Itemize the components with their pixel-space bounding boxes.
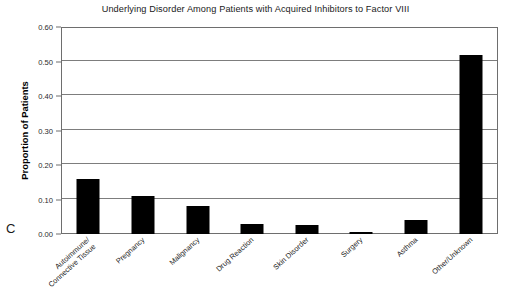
- x-axis-tick-label: Skin Disorder: [272, 236, 311, 272]
- x-axis-tick-label: Surgery: [340, 236, 365, 260]
- x-axis-tick-label: Other/Unknown: [431, 236, 475, 277]
- plot-area: [61, 27, 498, 234]
- y-axis-tick-label: 0.20: [38, 161, 53, 170]
- gridline: [62, 129, 497, 130]
- x-axis-tick-label: Autoimmune/Connective Tissue: [41, 236, 97, 289]
- y-axis-tick-label: 0.10: [38, 195, 53, 204]
- gridline: [62, 163, 497, 164]
- x-axis-tick-label: Asthma: [395, 236, 419, 259]
- gridline: [62, 198, 497, 199]
- y-axis-tick-label: 0.50: [38, 57, 53, 66]
- figure-panel-c: Underlying Disorder Among Patients with …: [0, 0, 511, 307]
- y-axis-tick-label: 0.40: [38, 92, 53, 101]
- y-axis-tick-label: 0.60: [38, 23, 53, 32]
- gridline: [62, 60, 497, 61]
- y-axis-tick-label: 0.00: [38, 230, 53, 239]
- x-axis-tick-labels: Autoimmune/Connective TissuePregnancyMal…: [61, 236, 498, 307]
- x-axis-tick-label: Drug Reaction: [215, 236, 256, 274]
- y-axis-ticks: 0.600.500.400.300.200.100.00: [0, 0, 61, 207]
- x-axis-tick-label: Malignancy: [168, 236, 202, 267]
- gridline: [62, 94, 497, 95]
- y-axis-tick-label: 0.30: [38, 126, 53, 135]
- panel-letter-label: C: [6, 221, 15, 236]
- x-axis-tick-label: Pregnancy: [115, 236, 147, 266]
- chart-title: Underlying Disorder Among Patients with …: [0, 4, 511, 14]
